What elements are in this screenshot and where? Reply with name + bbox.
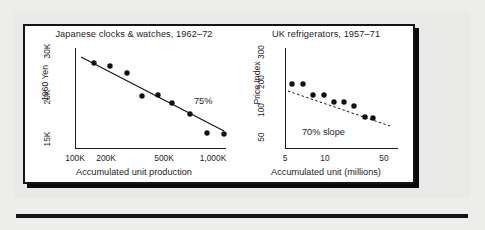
y-tick-right-100: 100 <box>256 98 266 122</box>
x-tick-right-50: 50 <box>370 153 398 163</box>
x-tick-left-200k: 200K <box>90 153 122 163</box>
x-tick-left-100k: 100K <box>59 153 91 163</box>
data-point <box>362 114 367 119</box>
trend-line-75pct <box>81 57 224 131</box>
x-axis-label-left: Accumulated unit production <box>29 167 239 177</box>
y-tick-left-20k: 20K <box>42 85 52 109</box>
annotation-75-percent: 75% <box>194 96 212 106</box>
plot-area-left: 75% <box>75 48 226 149</box>
data-point <box>187 111 192 116</box>
data-point <box>351 103 356 108</box>
data-point <box>341 99 346 104</box>
charts-container: Japanese clocks & watches, 1962–72 1960 … <box>25 26 413 182</box>
y-tick-left-30k: 30K <box>42 39 52 63</box>
y-tick-right-300: 300 <box>256 40 266 64</box>
data-point <box>310 92 315 97</box>
chart-title-left: Japanese clocks & watches, 1962–72 <box>29 29 239 39</box>
figure-frame: Japanese clocks & watches, 1962–72 1960 … <box>23 24 415 184</box>
x-tick-left-500k: 500K <box>148 153 180 163</box>
data-point <box>107 63 112 68</box>
x-tick-left-1000k: 1,000K <box>192 153 234 163</box>
trend-line-70pct-dashed <box>288 91 390 126</box>
data-point <box>370 115 375 120</box>
y-tick-left-15k: 15K <box>42 127 52 151</box>
data-point <box>221 131 226 136</box>
y-tick-right-50: 50 <box>256 125 266 149</box>
chart-uk-refrigerators: UK refrigerators, 1957–71 Price Index 30… <box>239 26 413 182</box>
data-point <box>169 100 174 105</box>
data-point <box>289 81 294 86</box>
plot-area-right: 70% slope <box>285 48 398 149</box>
page-rule <box>16 214 468 218</box>
data-point <box>204 130 209 135</box>
y-tick-right-200: 200 <box>256 70 266 94</box>
data-point <box>331 99 336 104</box>
data-point <box>139 93 144 98</box>
chart-japanese-clocks-watches: Japanese clocks & watches, 1962–72 1960 … <box>29 26 239 182</box>
x-tick-right-10: 10 <box>311 153 339 163</box>
x-tick-right-5: 5 <box>271 153 299 163</box>
data-point <box>155 92 160 97</box>
chart-title-right: UK refrigerators, 1957–71 <box>239 29 413 39</box>
x-axis-label-right: Accumulated unit (millions) <box>239 167 413 177</box>
data-point <box>91 60 96 65</box>
annotation-70-percent-slope: 70% slope <box>302 127 345 137</box>
data-point <box>300 81 305 86</box>
page-background: Japanese clocks & watches, 1962–72 1960 … <box>0 0 485 230</box>
data-point <box>321 92 326 97</box>
data-point <box>124 70 129 75</box>
